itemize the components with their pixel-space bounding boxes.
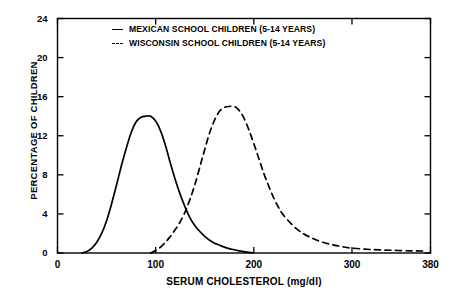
x-tick-label-200: 200	[234, 260, 274, 270]
x-tick-label-0: 0	[38, 260, 78, 270]
axis-ticks	[58, 19, 431, 254]
legend-item-wisconsin: WISCONSIN SCHOOL CHILDREN (5-14 YEARS)	[112, 36, 325, 50]
y-tick-label-0: 0	[26, 248, 48, 258]
y-tick-label-4: 4	[26, 209, 48, 219]
y-tick-label-20: 20	[26, 53, 48, 63]
x-tick-label-300: 300	[332, 260, 372, 270]
curve-wisconsin	[151, 106, 426, 253]
data-curves	[82, 106, 426, 253]
legend-label-wisconsin: WISCONSIN SCHOOL CHILDREN (5-14 YEARS)	[129, 36, 325, 50]
x-tick-label-380: 380	[411, 260, 451, 270]
chart-figure: PERCENTAGE OF CHILDREN 24201612840 01002…	[0, 0, 451, 302]
y-tick-label-24: 24	[26, 14, 48, 24]
chart-legend: MEXICAN SCHOOL CHILDREN (5-14 YEARS) WIS…	[112, 22, 325, 50]
x-tick-label-100: 100	[136, 260, 176, 270]
y-tick-label-12: 12	[26, 131, 48, 141]
y-tick-label-16: 16	[26, 92, 48, 102]
legend-label-mexican: MEXICAN SCHOOL CHILDREN (5-14 YEARS)	[129, 22, 315, 36]
y-tick-label-8: 8	[26, 170, 48, 180]
legend-item-mexican: MEXICAN SCHOOL CHILDREN (5-14 YEARS)	[112, 22, 325, 36]
x-axis-title: SERUM CHOLESTEROL (mg/dl)	[57, 276, 431, 287]
legend-line-dashed-icon	[112, 38, 125, 48]
plot-frame	[58, 19, 431, 254]
curve-mexican	[82, 116, 254, 253]
legend-line-solid-icon	[112, 24, 125, 34]
